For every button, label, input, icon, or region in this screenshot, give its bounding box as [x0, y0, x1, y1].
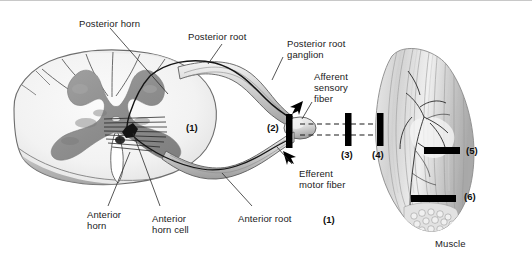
leader-afferent-fiber — [302, 102, 312, 119]
label-anterior-horn-line1: Anterior — [87, 209, 121, 220]
label-posterior-root-ganglion-line2: ganglion — [287, 49, 324, 60]
anatomy-figure: Posterior horn Posterior root Posterior … — [0, 0, 532, 259]
label-anterior-horn-cell-line1: Anterior — [152, 213, 186, 224]
marker-4: (4) — [372, 149, 384, 160]
marker-6: (6) — [464, 191, 476, 202]
label-posterior-horn: Posterior horn — [79, 18, 140, 29]
lesion-bar-2 — [286, 114, 293, 148]
marker-2: (2) — [267, 122, 279, 133]
lesion-bar-4 — [377, 113, 384, 146]
label-muscle: Muscle — [435, 238, 466, 249]
marker-1-root: (1) — [323, 214, 335, 225]
afferent-direction-arrow — [290, 101, 303, 115]
label-anterior-root: Anterior root — [238, 213, 292, 224]
leader-posterior-root — [208, 44, 222, 64]
marker-3: (3) — [341, 149, 353, 160]
label-afferent-line3: fiber — [314, 93, 333, 104]
label-anterior-horn-line2: horn — [87, 220, 106, 231]
label-efferent-line2: motor fiber — [299, 179, 346, 190]
label-efferent-line1: Efferent — [299, 168, 333, 179]
marker-5: (5) — [466, 145, 478, 156]
label-afferent-line2: sensory — [314, 82, 348, 93]
lesion-bar-6 — [411, 195, 456, 202]
label-posterior-root-ganglion-line1: Posterior root — [287, 38, 345, 49]
efferent-direction-arrow — [283, 151, 296, 165]
label-afferent-line1: Afferent — [314, 71, 348, 82]
label-anterior-horn-cell-line2: horn cell — [152, 224, 189, 235]
label-posterior-root: Posterior root — [188, 31, 246, 42]
lesion-bar-5 — [424, 147, 460, 154]
lesion-bar-3 — [345, 113, 352, 146]
skeletal-muscle — [376, 44, 474, 239]
leader-anterior-root — [222, 173, 252, 206]
marker-1-cord: (1) — [186, 122, 198, 133]
leader-posterior-root-ganglion — [272, 57, 283, 80]
